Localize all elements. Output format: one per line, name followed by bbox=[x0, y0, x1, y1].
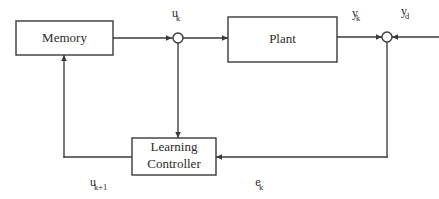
arrowhead-into-y-junction-right bbox=[392, 34, 398, 40]
signal-label-e-k: e k bbox=[255, 175, 264, 192]
summing-junction-y[interactable] bbox=[382, 32, 392, 42]
signal-label-y-d: y d bbox=[401, 4, 410, 21]
signal-y-k-subscript: k bbox=[356, 13, 361, 23]
block-diagram: Memory Plant Learning Controller u k y k… bbox=[0, 0, 439, 199]
block-memory-label: Memory bbox=[42, 30, 87, 45]
signal-label-u-k: u k bbox=[172, 6, 181, 23]
arrowhead-into-plant bbox=[222, 35, 228, 41]
arrowhead-into-u-junction bbox=[166, 35, 172, 41]
block-controller-label-line1: Learning bbox=[151, 139, 198, 154]
signal-u-kplus1-subscript: k+1 bbox=[94, 182, 107, 192]
arrowhead-into-y-junction-left bbox=[376, 34, 382, 40]
signal-label-y-k: y k bbox=[352, 6, 361, 23]
arrowhead-into-controller-top bbox=[175, 132, 181, 138]
arrowhead-into-memory-bottom bbox=[61, 55, 67, 61]
signal-label-u-k-plus-1: u k+1 bbox=[90, 175, 107, 192]
block-plant-label: Plant bbox=[269, 31, 296, 46]
signal-u-k-subscript: k bbox=[176, 13, 181, 23]
signal-e-k-subscript: k bbox=[259, 182, 264, 192]
diagram-canvas: Memory Plant Learning Controller u k y k… bbox=[0, 0, 439, 199]
block-controller-label-line2: Controller bbox=[147, 156, 201, 171]
summing-junction-u[interactable] bbox=[173, 33, 183, 43]
signal-y-d-subscript: d bbox=[405, 11, 410, 21]
arrowhead-into-controller-right bbox=[216, 154, 222, 160]
